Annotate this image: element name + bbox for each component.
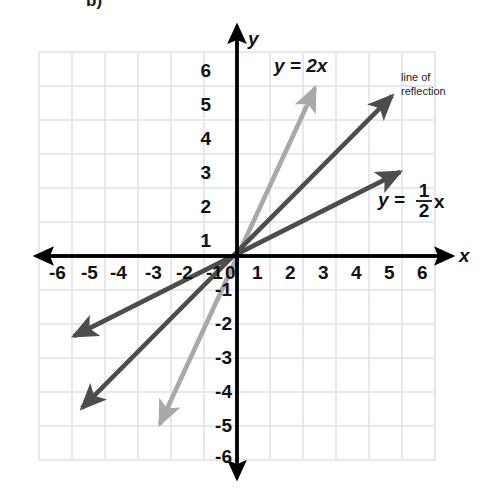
label-line-of-reflection: line of reflection bbox=[401, 71, 446, 97]
graph-figure: b) bbox=[0, 0, 484, 492]
label-half-x-prefix: y = bbox=[377, 189, 405, 210]
reflection-label-line-2: reflection bbox=[401, 85, 446, 97]
label-line-y-equals-2x: y = 2x bbox=[273, 55, 329, 76]
label-half-x-numerator: 1 bbox=[419, 180, 430, 201]
label-half-x-variable: x bbox=[434, 191, 445, 212]
label-2x-text: y = 2x bbox=[273, 55, 329, 76]
x-tick-neg-3: -3 bbox=[145, 262, 162, 283]
y-tick-neg-2: -2 bbox=[215, 313, 232, 334]
x-tick-neg-2: -2 bbox=[176, 262, 193, 283]
y-tick-pos-1: 1 bbox=[200, 230, 211, 251]
x-tick-pos-4: 4 bbox=[351, 262, 362, 283]
coordinate-plane-svg: x y -6 -5 -4 -3 -2 -1 0 1 2 3 4 5 6 6 5 … bbox=[0, 0, 484, 492]
y-tick-neg-6: -6 bbox=[215, 446, 232, 467]
y-tick-pos-5: 5 bbox=[200, 94, 211, 115]
y-tick-pos-2: 2 bbox=[200, 196, 211, 217]
reflection-label-line-1: line of bbox=[401, 71, 431, 83]
x-tick-pos-3: 3 bbox=[318, 262, 329, 283]
x-tick-pos-1: 1 bbox=[252, 262, 263, 283]
x-tick-pos-5: 5 bbox=[384, 262, 395, 283]
problem-part-label: b) bbox=[86, 0, 102, 11]
y-tick-neg-1: -1 bbox=[215, 279, 232, 300]
x-tick-pos-6: 6 bbox=[417, 262, 428, 283]
y-tick-neg-3: -3 bbox=[215, 347, 232, 368]
y-tick-pos-6: 6 bbox=[200, 60, 211, 81]
x-tick-pos-2: 2 bbox=[285, 262, 296, 283]
x-tick-neg-5: -5 bbox=[81, 262, 98, 283]
y-tick-neg-5: -5 bbox=[215, 415, 232, 436]
y-tick-neg-4: -4 bbox=[215, 381, 232, 402]
label-half-x-denominator: 2 bbox=[419, 200, 430, 221]
y-tick-pos-4: 4 bbox=[200, 128, 211, 149]
x-tick-neg-4: -4 bbox=[110, 262, 127, 283]
y-tick-pos-3: 3 bbox=[200, 162, 211, 183]
svg-text:y =: y = bbox=[377, 189, 405, 210]
x-tick-neg-6: -6 bbox=[49, 262, 66, 283]
x-axis-label: x bbox=[458, 245, 471, 266]
y-axis-label: y bbox=[247, 28, 260, 49]
